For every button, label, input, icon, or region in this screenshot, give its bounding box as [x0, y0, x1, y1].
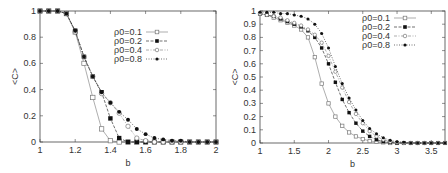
- y-tick-label: 0.4: [243, 85, 256, 95]
- legend-label: ρ0=0.8: [362, 40, 390, 50]
- y-tick-label: 0.3: [243, 98, 256, 108]
- chart-left: 11.21.41.61.8200.20.40.60.81b<C>ρ0=0.1ρ0…: [0, 0, 224, 173]
- y-tick-label: 0.5: [243, 72, 256, 82]
- x-tick-label: 1.6: [139, 145, 152, 155]
- series-rho0-0.1: [258, 12, 446, 145]
- x-tick-label: 1.8: [175, 145, 188, 155]
- y-tick-label: 0.4: [23, 85, 36, 95]
- y-tick-label: 0.6: [243, 59, 256, 69]
- y-tick-label: 0: [251, 138, 256, 148]
- y-tick-label: 0: [31, 137, 36, 147]
- x-tick-label: 1: [257, 146, 262, 156]
- legend-label: ρ0=0.8: [114, 54, 142, 64]
- y-tick-label: 0.1: [243, 125, 256, 135]
- y-tick-label: 1: [31, 6, 36, 16]
- y-tick-label: 0.2: [243, 112, 256, 122]
- chart-right-plot: 11.522.533.500.10.20.30.40.50.60.70.80.9…: [224, 0, 448, 173]
- y-tick-label: 1: [251, 6, 256, 16]
- y-tick-label: 0.8: [23, 32, 36, 42]
- x-tick-label: 2: [326, 146, 331, 156]
- y-axis-label: <C>: [230, 68, 240, 85]
- x-tick-label: 1.5: [288, 146, 301, 156]
- series-rho0-0.4: [258, 12, 446, 145]
- series-rho0-0.2: [258, 12, 446, 145]
- x-tick-label: 1.4: [104, 145, 117, 155]
- chart-left-plot: 11.21.41.61.8200.20.40.60.81b<C>ρ0=0.1ρ0…: [0, 0, 224, 173]
- legend: ρ0=0.1ρ0=0.2ρ0=0.4ρ0=0.8: [362, 13, 416, 50]
- chart-right: 11.522.533.500.10.20.30.40.50.60.70.80.9…: [224, 0, 448, 173]
- y-tick-label: 0.2: [23, 111, 36, 121]
- y-tick-label: 0.8: [243, 32, 256, 42]
- plot-frame: [260, 11, 445, 143]
- x-tick-label: 1.2: [69, 145, 82, 155]
- y-axis-label: <C>: [10, 68, 20, 85]
- legend: ρ0=0.1ρ0=0.2ρ0=0.4ρ0=0.8: [114, 27, 168, 64]
- y-tick-label: 0.6: [23, 58, 36, 68]
- x-tick-label: 2.5: [357, 146, 370, 156]
- x-axis-label: b: [350, 159, 355, 169]
- x-tick-label: 3: [395, 146, 400, 156]
- x-tick-label: 2: [213, 145, 218, 155]
- x-tick-label: 1: [37, 145, 42, 155]
- x-axis-label: b: [125, 158, 130, 168]
- x-tick-label: 3.5: [425, 146, 438, 156]
- y-tick-label: 0.9: [243, 19, 256, 29]
- y-tick-label: 0.7: [243, 46, 256, 56]
- series-rho0-0.8: [258, 11, 446, 145]
